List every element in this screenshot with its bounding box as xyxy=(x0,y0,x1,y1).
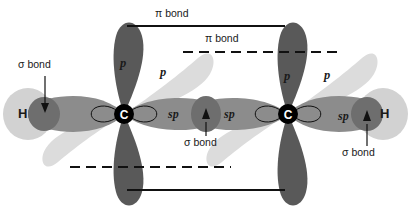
bond-label-sigma-left: σ bond xyxy=(18,59,51,70)
p-orbital-dark-left-lower xyxy=(114,114,144,206)
orbital-label-sp-left: sp xyxy=(168,108,179,120)
orbital-diagram: C C H H p p p p sp sp sp π bond π bond σ… xyxy=(0,0,409,221)
p-orbital-dark-right-lower xyxy=(278,114,308,206)
sigma-overlap-left-disc xyxy=(28,97,60,131)
orbital-label-sp-center-right: sp xyxy=(224,108,235,120)
orbital-label-sp-right: sp xyxy=(338,110,349,122)
carbon-symbol-right: C xyxy=(284,108,293,122)
bond-label-pi-second: π bond xyxy=(205,33,239,44)
atom-label-h-left: H xyxy=(18,107,27,120)
atom-label-h-right: H xyxy=(380,107,389,120)
bond-label-sigma-center: σ bond xyxy=(184,137,217,148)
bond-label-sigma-right: σ bond xyxy=(342,147,375,158)
orbital-label-p-right-diagonal: p xyxy=(324,69,330,82)
bond-label-pi-top: π bond xyxy=(155,8,189,19)
orbital-label-p-left-vertical: p xyxy=(120,57,126,70)
orbital-label-p-right-vertical: p xyxy=(284,70,290,83)
p-orbital-dark-right-upper xyxy=(278,23,308,115)
p-orbital-dark-left-upper xyxy=(114,23,144,115)
carbon-symbol-left: C xyxy=(120,108,129,122)
orbital-label-p-left-diagonal: p xyxy=(160,66,166,79)
